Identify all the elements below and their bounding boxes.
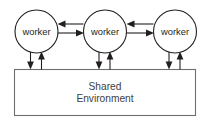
worker-node-middle[interactable]: worker xyxy=(84,10,127,53)
edge-middle-to-right xyxy=(127,30,155,37)
worker-node-left[interactable]: worker xyxy=(15,10,58,53)
edge-right-worker-to-environment-arrowhead xyxy=(166,62,173,70)
edge-left-to-middle-arrowhead xyxy=(76,30,84,37)
edge-middle-worker-to-environment xyxy=(96,52,103,70)
worker-node-right[interactable]: worker xyxy=(154,10,197,53)
edge-right-worker-to-environment xyxy=(166,52,173,70)
worker-left-label: worker xyxy=(21,26,50,37)
edge-middle-to-left-arrowhead xyxy=(58,21,66,28)
edge-middle-to-left xyxy=(58,21,84,28)
diagram-svg: Shared Environment xyxy=(0,0,210,124)
edge-left-worker-to-environment-arrowhead xyxy=(27,62,34,70)
edge-environment-to-left-worker xyxy=(38,52,45,70)
edge-environment-to-right-worker xyxy=(177,52,184,70)
edge-left-worker-to-environment xyxy=(27,52,34,70)
shared-environment-label-line1: Shared xyxy=(89,81,122,92)
edge-right-to-middle-arrowhead xyxy=(127,21,135,28)
edge-environment-to-middle-worker xyxy=(107,52,114,70)
edge-right-to-middle xyxy=(127,21,154,28)
edge-middle-to-right-arrowhead xyxy=(146,30,154,37)
shared-environment-label-line2: Environment xyxy=(76,93,133,104)
shared-environment-node[interactable]: Shared Environment xyxy=(15,70,196,116)
edge-middle-worker-to-environment-arrowhead xyxy=(96,62,103,70)
diagram-canvas: Shared Environment xyxy=(0,0,210,124)
worker-middle-label: worker xyxy=(90,26,119,37)
edge-left-to-middle xyxy=(58,30,85,37)
worker-right-label: worker xyxy=(160,26,189,37)
